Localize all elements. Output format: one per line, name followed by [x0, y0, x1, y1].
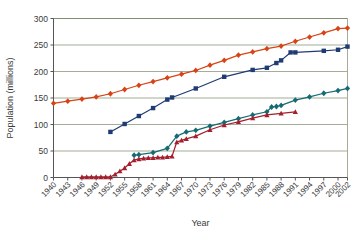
series-navy-square-point-1961 [151, 106, 155, 110]
y-tick-label-250: 250 [34, 40, 48, 50]
population-line-chart: 0501001502002503001940194319461949195219… [0, 0, 360, 237]
y-tick-label-100: 100 [34, 120, 48, 130]
series-navy-square-point-1987 [274, 61, 278, 65]
x-axis-title: Year [191, 218, 209, 228]
series-navy-square-point-2000 [336, 48, 340, 52]
y-tick-label-0: 0 [43, 173, 48, 183]
series-navy-square-point-1976 [222, 75, 226, 79]
series-navy-square-point-2002 [345, 44, 349, 48]
chart-canvas: 0501001502002503001940194319461949195219… [0, 0, 360, 237]
series-navy-square-point-1965 [170, 95, 174, 99]
series-navy-square-point-1988 [279, 58, 283, 62]
series-navy-square-point-1990 [288, 50, 292, 54]
series-navy-square-point-1964 [165, 97, 169, 101]
y-tick-label-150: 150 [34, 93, 48, 103]
series-navy-square-point-1985 [265, 66, 269, 70]
series-navy-square-point-1970 [194, 86, 198, 90]
y-tick-label-300: 300 [34, 14, 48, 24]
series-navy-square-point-1952 [108, 130, 112, 134]
series-navy-square-point-1991 [293, 50, 297, 54]
series-navy-square-point-1997 [322, 49, 326, 53]
series-navy-square-point-1982 [250, 68, 254, 72]
series-navy-square-point-1955 [122, 122, 126, 126]
y-tick-label-50: 50 [39, 146, 49, 156]
y-tick-label-200: 200 [34, 67, 48, 77]
y-axis-title: Population (millions) [5, 57, 15, 138]
series-navy-square-point-1958 [137, 114, 141, 118]
